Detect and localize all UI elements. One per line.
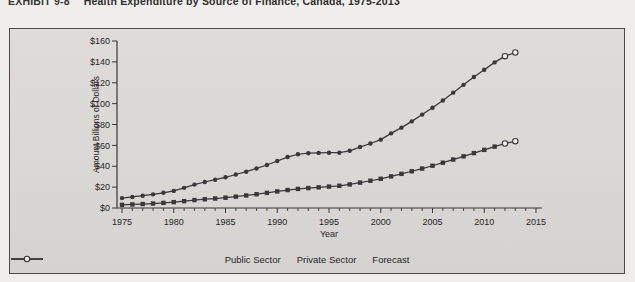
exhibit-title: Health Expenditure by Source of Finance,… (84, 0, 400, 7)
x-tick-label: 1995 (319, 217, 339, 227)
data-point (285, 188, 289, 192)
data-point (348, 149, 352, 153)
x-tick-label: 2015 (526, 217, 546, 227)
data-point (161, 201, 165, 205)
y-tick-label: $160 (90, 36, 110, 46)
chart-panel: $0$20$40$60$80$100$120$140$1601975198019… (9, 28, 625, 274)
data-point (327, 184, 331, 188)
data-point (358, 145, 362, 149)
data-point (399, 125, 403, 129)
data-point (244, 193, 248, 197)
data-point (182, 199, 186, 203)
x-tick-label: 1975 (112, 217, 132, 227)
data-point (316, 185, 320, 189)
data-point (348, 182, 352, 186)
legend-item-private-sector: Private Sector (297, 254, 357, 265)
data-point (172, 189, 176, 193)
data-point (451, 90, 455, 94)
series-markers-private-sector (120, 139, 518, 208)
data-point (161, 191, 165, 195)
y-tick-label: $140 (90, 57, 110, 67)
data-point (379, 137, 383, 141)
data-point (430, 106, 434, 110)
legend-label: Private Sector (297, 254, 357, 265)
data-point (234, 194, 238, 198)
x-tick-label: 1980 (164, 217, 184, 227)
data-point (451, 157, 455, 161)
data-point (151, 201, 155, 205)
series-line-public-sector (122, 52, 515, 198)
data-point (430, 164, 434, 168)
x-tick-label: 1985 (215, 217, 235, 227)
x-axis-title: Year (320, 229, 338, 239)
data-point (389, 174, 393, 178)
chart-canvas: $0$20$40$60$80$100$120$140$1601975198019… (10, 29, 626, 275)
data-point (130, 195, 134, 199)
legend-label: Public Sector (225, 254, 281, 265)
data-point (203, 197, 207, 201)
data-point (151, 192, 155, 196)
data-point (410, 169, 414, 173)
legend-item-forecast: Forecast (372, 254, 409, 265)
x-axis: 197519801985199019952000200520102015 (112, 208, 546, 227)
data-point (254, 166, 258, 170)
data-point (461, 83, 465, 87)
data-point (244, 169, 248, 173)
data-point (172, 200, 176, 204)
x-tick-label: 2010 (474, 217, 494, 227)
data-point (223, 195, 227, 199)
series-markers-public-sector (120, 50, 518, 201)
data-point (472, 75, 476, 79)
data-point (472, 151, 476, 155)
forecast-point (502, 141, 507, 146)
x-tick-label: 1990 (267, 217, 287, 227)
x-tick-label: 2000 (371, 217, 391, 227)
data-point (120, 203, 124, 207)
legend-item-public-sector: Public Sector (225, 254, 281, 265)
data-point (337, 150, 341, 154)
exhibit-heading: EXHIBIT 9-8Health Expenditure by Source … (8, 0, 400, 7)
data-point (141, 193, 145, 197)
data-point (389, 131, 393, 135)
data-point (492, 144, 496, 148)
data-point (285, 155, 289, 159)
data-point (306, 186, 310, 190)
data-point (213, 178, 217, 182)
y-tick-label: $0 (100, 203, 110, 213)
data-point (420, 112, 424, 116)
data-point (275, 159, 279, 163)
forecast-point (24, 256, 29, 261)
data-point (182, 186, 186, 190)
data-point (399, 172, 403, 176)
data-point (358, 180, 362, 184)
data-point (410, 119, 414, 123)
forecast-point (513, 50, 518, 55)
data-point (482, 148, 486, 152)
axes (117, 41, 542, 208)
data-point (213, 196, 217, 200)
data-point (254, 192, 258, 196)
data-point (368, 141, 372, 145)
data-point (379, 177, 383, 181)
forecast-point (502, 53, 507, 58)
data-point (296, 152, 300, 156)
data-point (275, 189, 279, 193)
data-point (223, 175, 227, 179)
legend-marker-forecast (10, 254, 44, 264)
data-point (316, 151, 320, 155)
chart-legend: Public SectorPrivate SectorForecast (10, 254, 624, 265)
data-point (420, 166, 424, 170)
data-point (441, 161, 445, 165)
data-point (265, 191, 269, 195)
data-point (492, 60, 496, 64)
data-point (203, 180, 207, 184)
data-point (306, 151, 310, 155)
y-axis-title: Amount Billions of Dollars (91, 76, 101, 173)
data-point (296, 187, 300, 191)
legend-label: Forecast (372, 254, 409, 265)
data-point (461, 154, 465, 158)
data-point (441, 98, 445, 102)
data-point (368, 179, 372, 183)
data-point (482, 68, 486, 72)
forecast-point (513, 139, 518, 144)
